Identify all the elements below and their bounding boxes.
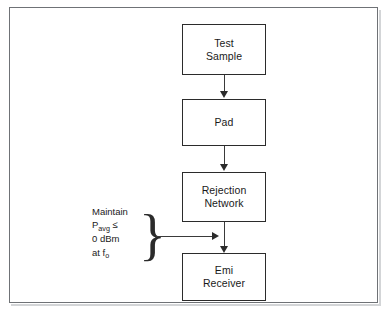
node-test-sample: Test Sample	[182, 24, 266, 75]
annotation-line-dbm: 0 dBm	[92, 232, 128, 245]
node-pad: Pad	[182, 99, 266, 146]
node-test-sample-line1: Test	[206, 37, 242, 50]
annotation-line-maintain: Maintain	[92, 205, 128, 218]
annotation-at-prefix: at	[92, 247, 100, 258]
arrowhead-into-rejection-network-icon	[220, 164, 228, 171]
power-constraint-annotation: Maintain Pavg ≤ 0 dBm at fo	[92, 205, 128, 260]
annotation-p-subscript: avg	[98, 224, 110, 233]
arrowhead-into-pad-icon	[220, 91, 228, 98]
node-emi-receiver-line2: Receiver	[203, 277, 245, 290]
node-emi-receiver: Emi Receiver	[182, 253, 266, 301]
node-rejection-network: Rejection Network	[182, 172, 266, 222]
annotation-brace: }	[139, 202, 155, 268]
connector-annotation-to-signal-path	[156, 236, 213, 237]
annotation-f-subscript: o	[105, 251, 109, 260]
annotation-line-frequency: at fo	[92, 246, 128, 260]
connector-pad-to-rejection-network	[224, 146, 225, 165]
arrowhead-annotation-pointer-icon	[212, 232, 219, 240]
node-test-sample-line2: Sample	[206, 50, 242, 63]
connector-test-sample-to-pad	[224, 75, 225, 92]
annotation-line-power: Pavg ≤	[92, 218, 128, 232]
node-rejection-network-line2: Network	[202, 197, 247, 210]
figure-border-shadow-right	[379, 10, 381, 304]
node-rejection-network-line1: Rejection	[202, 184, 247, 197]
figure-border-shadow-bottom	[11, 304, 381, 306]
node-pad-line1: Pad	[215, 116, 234, 129]
annotation-less-equal-operator: ≤	[113, 219, 118, 230]
node-emi-receiver-line1: Emi	[203, 264, 245, 277]
arrowhead-into-emi-receiver-icon	[220, 246, 228, 253]
diagram-canvas: Test Sample Pad Rejection Network Emi Re…	[0, 0, 392, 319]
